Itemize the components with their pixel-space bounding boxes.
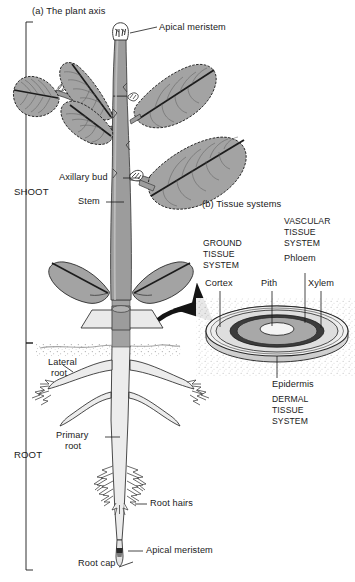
label-pith: Pith	[261, 278, 277, 289]
axillary-bud-upper-mark	[128, 93, 138, 101]
label-ground-tissue-line1: GROUND	[203, 238, 242, 248]
label-epidermis: Epidermis	[272, 379, 314, 390]
label-apical-meristem-shoot: Apical meristem	[159, 22, 226, 33]
bracket-label-root: ROOT	[14, 449, 42, 460]
label-xylem: Xylem	[308, 278, 334, 289]
leaf-lower-right-small	[133, 262, 194, 303]
soil-line	[36, 343, 181, 356]
panel-a-caption: (a) The plant axis	[32, 6, 105, 17]
label-dermal-tissue-line2: TISSUE	[272, 405, 304, 415]
label-vascular-tissue-line2: TISSUE	[284, 227, 316, 237]
label-stem: Stem	[78, 196, 100, 207]
label-phloem: Phloem	[284, 253, 316, 264]
label-primary-root-line1: Primary	[56, 430, 88, 441]
leaf-upper-right	[130, 64, 216, 127]
label-ground-tissue-line3: SYSTEM	[203, 260, 239, 270]
label-root-cap: Root cap	[78, 558, 116, 569]
leaf-lower-left	[49, 262, 110, 303]
plant-anatomy-figure: (a) The plant axis (b) Tissue systems SH…	[0, 0, 355, 582]
label-cortex: Cortex	[205, 278, 233, 289]
plant-diagram-illustration	[0, 0, 355, 582]
label-axillary-bud: Axillary bud	[59, 172, 108, 183]
label-dermal-tissue-line1: DERMAL	[272, 394, 308, 404]
label-lateral-root-line1: Lateral	[48, 357, 77, 368]
shoot-apical-meristem-mark	[113, 23, 129, 40]
label-lateral-root-line2: root	[51, 368, 67, 379]
bracket-label-shoot: SHOOT	[14, 186, 49, 197]
stem-cut-plane	[81, 306, 163, 330]
label-primary-root-line2: root	[65, 441, 81, 452]
panel-b-caption: (b) Tissue systems	[202, 199, 281, 210]
label-vascular-tissue-line1: VASCULAR	[284, 216, 331, 226]
label-root-hairs: Root hairs	[150, 498, 193, 509]
shoot-bracket	[26, 22, 33, 343]
stem-cross-section-disc	[206, 306, 348, 362]
stem	[111, 38, 132, 347]
disc-pith	[260, 323, 294, 336]
label-vascular-tissue-line3: SYSTEM	[284, 238, 320, 248]
leaf-left-outer	[13, 76, 59, 116]
root-system	[48, 346, 194, 566]
label-ground-tissue-line2: TISSUE	[203, 249, 235, 259]
label-apical-meristem-root: Apical meristem	[146, 545, 213, 556]
label-dermal-tissue-line3: SYSTEM	[272, 416, 308, 426]
axillary-bud-mark	[130, 170, 143, 181]
